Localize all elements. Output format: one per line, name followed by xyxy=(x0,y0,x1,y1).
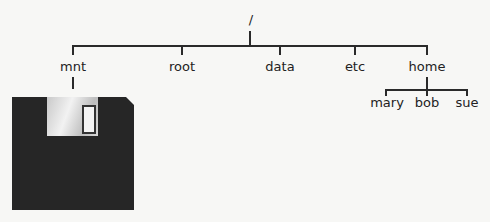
connector-level1-horizontal xyxy=(72,45,428,47)
connector-mnt xyxy=(72,45,74,55)
connector-mnt-floppy xyxy=(72,77,74,89)
floppy-disk-icon xyxy=(12,97,134,210)
connector-data xyxy=(279,45,281,55)
node-data: data xyxy=(265,60,294,74)
connector-etc xyxy=(354,45,356,55)
connector-root xyxy=(181,45,183,55)
node-sue: sue xyxy=(455,96,478,110)
node-mnt: mnt xyxy=(60,60,86,74)
floppy-shutter xyxy=(47,97,98,136)
node-root: root xyxy=(169,60,195,74)
node-etc: etc xyxy=(345,60,365,74)
node-bob: bob xyxy=(415,96,439,110)
connector-home xyxy=(426,45,428,55)
floppy-shutter-window xyxy=(82,105,96,134)
node-mary: mary xyxy=(370,96,404,110)
node-home: home xyxy=(409,60,446,74)
node-root-slash: / xyxy=(249,13,253,27)
